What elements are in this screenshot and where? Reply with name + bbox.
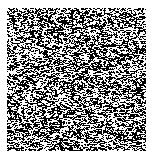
noise-texture-block	[7, 8, 146, 151]
image-canvas	[0, 0, 154, 162]
noise-texture	[7, 8, 146, 151]
